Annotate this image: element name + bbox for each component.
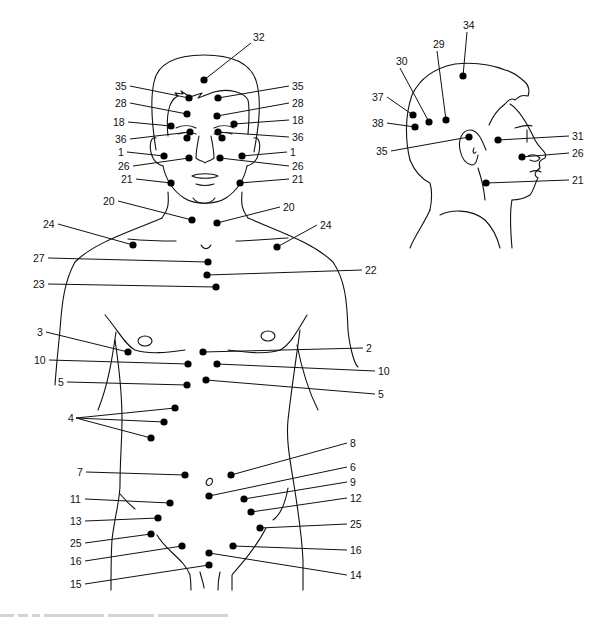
leader-line [86, 472, 185, 475]
leader-line [217, 207, 280, 223]
front_view-point-20: 20 [103, 195, 196, 224]
leader-line [240, 179, 289, 183]
leader-line [130, 103, 187, 114]
front_view-point-21: 21 [121, 173, 175, 187]
point-label: 12 [350, 492, 362, 504]
point-label: 10 [378, 365, 390, 377]
front_view-point-1: 1 [118, 146, 168, 160]
point-label: 16 [350, 544, 362, 556]
point-marker-dot [205, 549, 212, 556]
point-marker-dot [218, 134, 225, 141]
point-label: 20 [283, 201, 295, 213]
front_view-point-14: 14 [205, 549, 361, 581]
leader-line [127, 152, 164, 156]
point-marker-dot [188, 216, 195, 223]
point-marker-dot [256, 524, 263, 531]
point-marker-dot [229, 542, 236, 549]
point-marker-dot [442, 116, 449, 123]
point-label: 21 [121, 173, 133, 185]
point-label: 38 [372, 117, 384, 129]
point-marker-dot [160, 418, 167, 425]
front_view-point-24: 24 [43, 218, 137, 249]
side_view-point-26: 26 [518, 147, 583, 161]
front_view-point-21: 21 [236, 173, 303, 187]
front_view-point-18: 18 [113, 116, 175, 130]
point-label: 31 [572, 130, 584, 142]
leader-line [48, 258, 208, 262]
leader-line [387, 123, 415, 127]
point-label: 29 [433, 38, 445, 50]
point-label: 3 [37, 326, 43, 338]
leader-line [233, 546, 347, 550]
point-label: 26 [572, 147, 584, 159]
front-figure-outline [55, 55, 358, 590]
point-label: 8 [350, 437, 356, 449]
point-marker-dot [183, 381, 190, 388]
point-marker-dot [184, 360, 191, 367]
leader-line [209, 467, 347, 496]
front_view-point-5: 5 [58, 376, 191, 389]
point-marker-dot [205, 492, 212, 499]
front_view-point [76, 418, 155, 442]
leader-line [242, 152, 287, 156]
side_view-point-29: 29 [433, 38, 450, 124]
point-label: 14 [350, 569, 362, 581]
leader-line [67, 382, 187, 385]
point-label: 25 [70, 537, 82, 549]
point-marker-dot [482, 179, 489, 186]
point-label: 9 [350, 476, 356, 488]
leader-line [220, 158, 289, 166]
point-marker-dot [230, 120, 237, 127]
front_view-point-23: 23 [33, 278, 220, 291]
point-marker-dot [166, 499, 173, 506]
front_view-point-27: 27 [33, 252, 212, 266]
point-label: 10 [34, 354, 46, 366]
leader-line [85, 546, 182, 561]
front_view-point-6: 6 [205, 461, 356, 500]
point-label: 35 [115, 80, 127, 92]
point-marker-dot [171, 404, 178, 411]
point-marker-dot [273, 243, 280, 250]
point-label: 6 [350, 461, 356, 473]
front_view-point-1: 1 [238, 146, 296, 160]
point-label: 35 [376, 145, 388, 157]
point-marker-dot [203, 271, 210, 278]
point-marker-dot [167, 122, 174, 129]
point-label: 21 [572, 174, 584, 186]
point-marker-dot [147, 434, 154, 441]
figure-caption-cutoff [0, 611, 240, 620]
leader-line [217, 103, 289, 116]
point-label: 23 [33, 278, 45, 290]
point-marker-dot [124, 348, 131, 355]
point-label: 30 [396, 55, 408, 67]
point-marker-dot [183, 134, 190, 141]
point-marker-dot [425, 118, 432, 125]
point-label: 32 [253, 31, 265, 43]
point-marker-dot [494, 136, 501, 143]
point-marker-dot [147, 530, 154, 537]
front_view-point-2: 2 [199, 342, 372, 356]
point-label: 25 [350, 518, 362, 530]
leader-line [130, 86, 189, 98]
front_view-point-32: 32 [200, 31, 264, 84]
point-label: 1 [290, 146, 296, 158]
leader-line [85, 518, 158, 521]
point-marker-dot [214, 128, 221, 135]
front_view-point-7: 7 [77, 466, 189, 479]
point-marker-dot [212, 283, 219, 290]
leader-line [128, 122, 171, 126]
point-marker-dot [213, 219, 220, 226]
side_view-point-31: 31 [494, 130, 583, 144]
point-marker-dot [154, 514, 161, 521]
front_view-point-9: 9 [240, 476, 356, 503]
side-view-points: 342930373835312621 [372, 19, 584, 187]
body-point-diagram: 3235352828181836361126262121202024242722… [0, 0, 609, 620]
point-label: 26 [118, 160, 130, 172]
leader-line [85, 534, 151, 543]
side_view-point-38: 38 [372, 117, 419, 131]
point-label: 27 [33, 252, 45, 264]
front-view-points: 3235352828181836361126262121202024242722… [33, 31, 390, 590]
point-marker-dot [185, 94, 192, 101]
point-label: 28 [115, 97, 127, 109]
leader-line [251, 498, 347, 512]
